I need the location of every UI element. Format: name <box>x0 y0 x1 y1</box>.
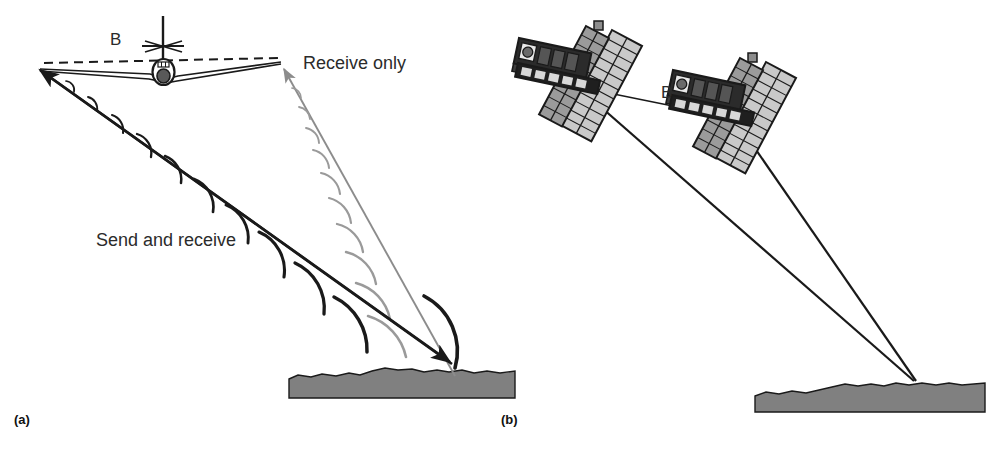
baseline-label-b: B <box>661 83 672 102</box>
send-beam-line-down <box>44 73 450 362</box>
sar-interferometry-diagram: B Receive only Send and receive (a) <box>0 0 989 450</box>
ground-shape-a <box>289 368 515 398</box>
ground-terrain-a <box>289 368 515 398</box>
receive-wavefronts <box>292 88 406 357</box>
baseline-label-a: B <box>110 30 121 49</box>
satellite-1-mast <box>594 21 603 30</box>
send-receive-beam-a <box>40 70 457 368</box>
beam-to-satellite-2 <box>734 118 916 381</box>
receive-only-beam-a <box>284 69 455 376</box>
panel-caption-b: (b) <box>501 412 518 427</box>
panel-caption-a: (a) <box>14 412 30 427</box>
ground-terrain-b <box>755 383 985 412</box>
receive-only-label: Receive only <box>303 53 406 73</box>
send-and-receive-label: Send and receive <box>96 230 236 250</box>
satellite-icon-1 <box>512 21 642 141</box>
ground-shape-b <box>755 383 985 412</box>
panel-a: B Receive only Send and receive (a) <box>14 16 515 427</box>
satellite-icon-2 <box>666 53 796 173</box>
satellite-2-mast <box>748 53 757 62</box>
figure-container: B Receive only Send and receive (a) <box>0 0 989 450</box>
panel-b: B (b) <box>501 21 985 427</box>
